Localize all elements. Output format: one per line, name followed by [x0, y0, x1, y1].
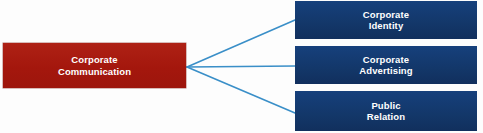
connector-to-corporate-identity	[187, 20, 295, 67]
diagram-canvas: Corporate Communication Corporate Identi…	[0, 0, 483, 133]
node-public-relation[interactable]: Public Relation	[295, 91, 477, 131]
node-public-relation-label: Public Relation	[363, 100, 409, 122]
node-corporate-communication[interactable]: Corporate Communication	[3, 43, 186, 88]
node-corporate-advertising[interactable]: Corporate Advertising	[295, 46, 477, 84]
connector-to-public-relation	[187, 67, 295, 113]
node-corporate-identity[interactable]: Corporate Identity	[295, 1, 477, 39]
node-corporate-communication-label: Corporate Communication	[54, 54, 135, 76]
connector-to-corporate-advertising	[187, 66, 295, 67]
node-corporate-identity-label: Corporate Identity	[359, 9, 413, 31]
node-corporate-advertising-label: Corporate Advertising	[355, 54, 416, 76]
